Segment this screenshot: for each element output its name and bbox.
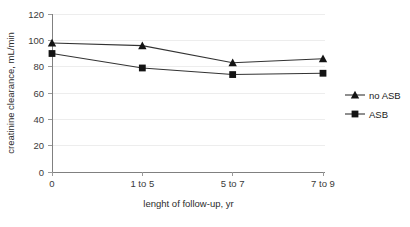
data-point-square (320, 70, 327, 77)
data-series-group (48, 39, 327, 78)
y-axis-title: creatinine clearance, mL/min (5, 32, 16, 153)
data-point-square (139, 65, 146, 72)
data-point-square (49, 50, 56, 57)
series-1 (48, 39, 327, 67)
y-axis-ticks: 020406080100120 (28, 9, 52, 178)
x-tick-label: 0 (49, 178, 54, 189)
data-point-square (229, 71, 236, 78)
legend-item-1[interactable]: no ASB (345, 90, 401, 101)
y-tick-label: 40 (33, 114, 44, 125)
x-axis-title: lenght of follow-up, yr (143, 198, 233, 209)
series-line (52, 54, 323, 75)
x-tick-label: 5 to 7 (221, 178, 245, 189)
y-tick-label: 20 (33, 140, 44, 151)
y-tick-label: 60 (33, 88, 44, 99)
y-tick-label: 0 (39, 167, 44, 178)
legend-marker-square (352, 111, 359, 118)
chart-figure: 020406080100120 01 to 55 to 77 to 9 no A… (0, 0, 410, 227)
chart-legend: no ASBASB (345, 90, 401, 120)
y-tick-label: 120 (28, 9, 44, 20)
y-tick-label: 100 (28, 35, 44, 46)
legend-label: ASB (369, 109, 388, 120)
legend-label: no ASB (369, 90, 401, 101)
line-chart: 020406080100120 01 to 55 to 77 to 9 no A… (0, 0, 410, 227)
x-tick-label: 7 to 9 (311, 178, 335, 189)
legend-item-2[interactable]: ASB (345, 109, 388, 120)
y-tick-label: 80 (33, 61, 44, 72)
gridlines (52, 14, 325, 146)
x-axis-ticks: 01 to 55 to 77 to 9 (49, 172, 335, 189)
x-tick-label: 1 to 5 (130, 178, 154, 189)
